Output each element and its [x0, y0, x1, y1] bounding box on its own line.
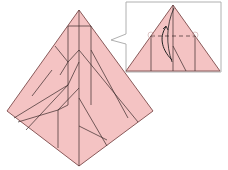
origami-diagram [0, 0, 228, 170]
